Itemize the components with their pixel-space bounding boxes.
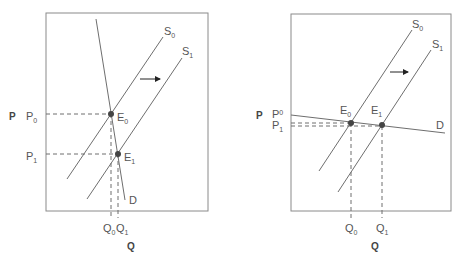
right-axis-p: P <box>256 110 263 121</box>
right-label-e0: E0 <box>340 104 351 118</box>
right-axis-q: Q <box>371 241 379 252</box>
left-label-s0: S0 <box>164 25 175 39</box>
right-point-e1 <box>379 122 385 128</box>
left-panel: S0 S1 D E0 E1 P P0 P1 Q0 Q1 Q <box>9 13 208 252</box>
left-point-e1 <box>115 151 121 157</box>
right-point-e0 <box>348 120 354 126</box>
right-label-e1: E1 <box>371 104 382 118</box>
right-label-p1: P1 <box>272 119 283 133</box>
right-label-d: D <box>436 119 444 131</box>
right-label-q1: Q1 <box>376 222 389 236</box>
left-axis-p: P <box>9 111 16 122</box>
left-label-p1: P1 <box>26 150 37 164</box>
right-label-q0: Q0 <box>345 222 358 236</box>
left-frame <box>46 13 208 211</box>
right-label-s0: S0 <box>412 18 423 32</box>
left-label-e0: E0 <box>117 111 128 125</box>
left-point-e0 <box>108 111 114 117</box>
right-label-s1: S1 <box>432 38 443 52</box>
left-label-q1: Q1 <box>116 222 129 236</box>
right-panel: S0 S1 D E0 E1 P P0 P1 Q0 Q1 Q <box>256 14 451 252</box>
left-label-s1: S1 <box>182 45 193 59</box>
left-label-e1: E1 <box>124 151 135 165</box>
left-label-q0: Q0 <box>103 222 116 236</box>
left-label-p0: P0 <box>26 110 37 124</box>
right-demand-d <box>291 115 445 133</box>
left-axis-q: Q <box>127 241 135 252</box>
left-label-d: D <box>129 194 137 206</box>
supply-demand-diagram: S0 S1 D E0 E1 P P0 P1 Q0 Q1 Q S0 S1 D E0… <box>0 0 466 269</box>
